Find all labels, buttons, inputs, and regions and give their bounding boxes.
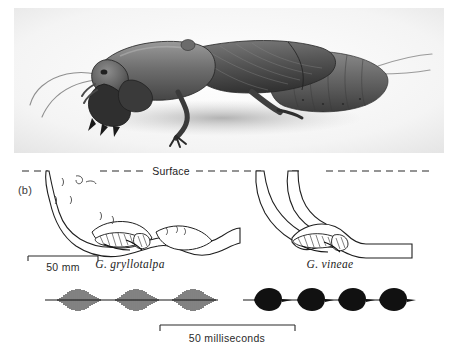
pulse-solid [254,288,292,311]
pulse-solid [338,288,375,311]
oscillogram-vineae [243,288,416,311]
scale-bar-label: 50 mm [46,261,80,273]
oscillogram-gryllotalpa [45,289,218,311]
pulse-solid [379,288,416,311]
burrow-and-song-diagram: Surface [0,0,458,355]
time-scale-bar [160,325,295,331]
surface-label: Surface [152,165,190,177]
burrow-left-exit-horn [156,226,212,250]
figure-container: (a) (b) [0,0,458,355]
burrow-right: G. vineae [256,171,412,270]
pulse-solid [297,288,334,311]
species-label-right: G. vineae [307,258,354,270]
species-label-left: G. gryllotalpa [95,258,164,271]
time-scale-label: 50 milliseconds [189,332,265,344]
